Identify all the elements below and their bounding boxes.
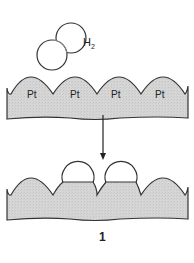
reaction-arrow xyxy=(100,115,106,160)
arrow-head-icon xyxy=(100,153,106,160)
surface-body xyxy=(7,178,188,221)
platinum-surface-after xyxy=(7,178,188,221)
adsorbed-h-atom-2 xyxy=(105,161,137,183)
adsorbed-h-atom-1 xyxy=(62,161,94,183)
figure-label: 1 xyxy=(99,230,106,244)
h2-label: H2 xyxy=(83,36,95,50)
adsorbed-hydrogen-atoms xyxy=(62,161,137,183)
pt-atom-label-3: Pt xyxy=(111,89,121,100)
h2-molecule xyxy=(37,23,86,70)
pt-atom-label-1: Pt xyxy=(27,89,37,100)
pt-atom-label-4: Pt xyxy=(155,89,165,100)
dissociative-adsorption-diagram: H2 Pt Pt Pt Pt 1 xyxy=(0,0,194,263)
pt-atom-label-2: Pt xyxy=(70,89,80,100)
